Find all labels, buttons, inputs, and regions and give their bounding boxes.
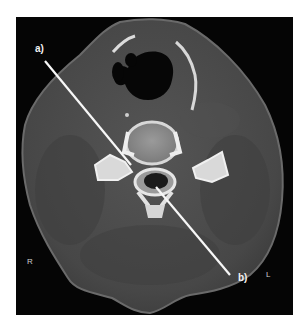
ct-anatomy — [16, 17, 293, 315]
orientation-left-label: L — [266, 270, 270, 279]
spinous-process — [145, 205, 165, 218]
annotation-label-a: a) — [35, 43, 44, 54]
ct-scan-image — [16, 17, 293, 315]
annotation-label-b: b) — [238, 272, 247, 283]
orientation-right-label: R — [27, 257, 33, 266]
spinal-canal — [144, 173, 168, 189]
vertebral-body — [126, 122, 178, 164]
